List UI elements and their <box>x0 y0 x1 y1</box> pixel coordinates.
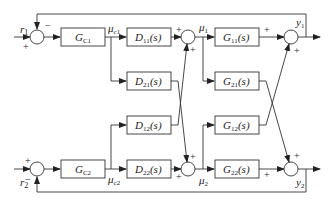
block-diagram: r1 r2 − + + − + + + + + + + + GC1 GC2 μc… <box>0 0 334 207</box>
sign-plus-y1-b: + <box>294 45 300 56</box>
d21-to-mu2-sum <box>171 81 187 162</box>
sign-plus-1: + <box>23 41 29 52</box>
branch-to-g12 <box>203 125 214 169</box>
mu1-label: μ1 <box>198 21 209 35</box>
sum-junction-mu1 <box>181 30 195 44</box>
branch-to-d12 <box>111 125 126 169</box>
branch-to-g21 <box>203 37 214 81</box>
d12-to-mu1-sum <box>171 44 187 125</box>
sign-plus-2: + <box>25 155 31 166</box>
g21-to-y2-sum <box>259 81 289 162</box>
sign-plus-y2-a: + <box>294 150 300 161</box>
g12-to-y1-sum <box>259 44 289 125</box>
mu-c2-label: μc2 <box>107 173 121 187</box>
sum-junction-1 <box>30 30 44 44</box>
r1-label: r1 <box>20 23 28 37</box>
sign-plus-mu2-a: + <box>190 151 196 162</box>
sign-plus-y1-a: + <box>264 24 270 35</box>
sum-junction-y2 <box>284 162 298 176</box>
sign-plus-mu2-b: + <box>176 171 182 182</box>
sum-junction-2 <box>30 162 44 176</box>
branch-to-d21 <box>111 37 126 81</box>
sign-plus-mu1-a: + <box>176 24 182 35</box>
sum-junction-y1 <box>284 30 298 44</box>
y2-label: y2 <box>295 176 305 190</box>
sign-plus-mu1-b: + <box>190 44 196 55</box>
sign-minus-1: − <box>45 20 51 31</box>
mu-c1-label: μc1 <box>107 22 121 36</box>
y1-label: y1 <box>295 16 305 30</box>
sum-junction-mu2 <box>181 162 195 176</box>
sign-minus-2: − <box>25 174 31 185</box>
mu2-label: μ2 <box>198 174 209 188</box>
sign-plus-y2-b: + <box>264 169 270 180</box>
